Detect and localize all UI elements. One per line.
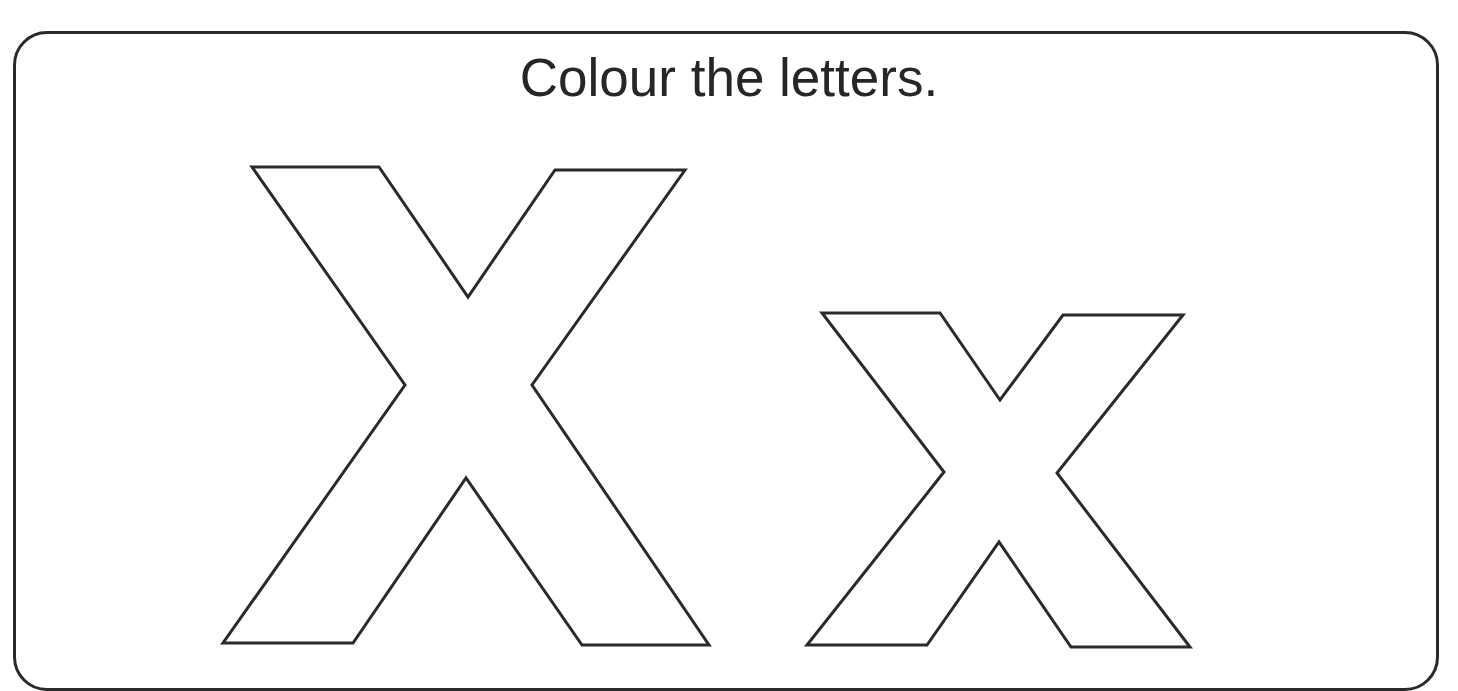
lowercase-x-outline[interactable] xyxy=(807,313,1190,647)
uppercase-x-outline[interactable] xyxy=(223,167,709,645)
